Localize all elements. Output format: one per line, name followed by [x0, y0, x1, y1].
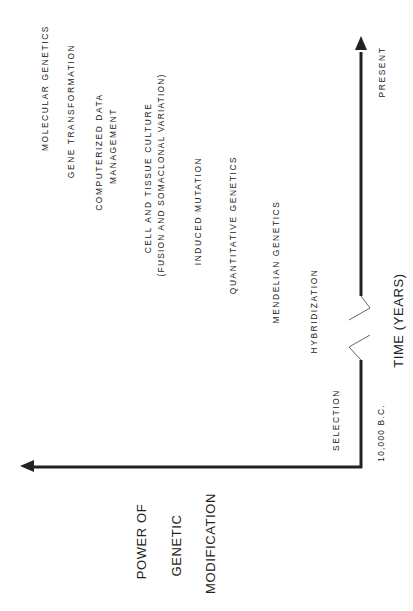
power-axis-title-line3: MODIFICATION — [203, 484, 218, 604]
axis-break-upper — [349, 296, 370, 320]
time-end-label: PRESENT — [377, 41, 387, 103]
time-axis-arrowhead — [355, 36, 367, 50]
milestone-induced-mutation: INDUCED MUTATION — [193, 152, 203, 270]
power-axis-title-line1: POWER OF — [134, 500, 149, 584]
milestone-cell-tissue-culture-sub: (FUSION AND SOMACLONAL VARIATION) — [156, 59, 166, 291]
milestone-selection: SELECTION — [331, 384, 341, 456]
milestone-computerized-data-sub: MANAGEMENT — [108, 88, 118, 204]
time-axis-title: TIME (YEARS) — [391, 245, 406, 397]
time-start-label: 10,000 B.C. — [376, 399, 386, 467]
milestone-hybridization: HYBRIDIZATION — [309, 264, 319, 358]
power-axis-title-line2: GENETIC — [169, 511, 184, 581]
axis-break-lower — [349, 335, 370, 360]
power-axis-arrowhead — [20, 460, 34, 472]
milestone-quantitative-genetics: QUANTITATIVE GENETICS — [228, 150, 238, 300]
milestone-mendelian-genetics: MENDELIAN GENETICS — [271, 194, 281, 330]
milestone-cell-tissue-culture: CELL AND TISSUE CULTURE — [143, 94, 153, 262]
milestone-computerized-data: COMPUTERIZED DATA — [94, 80, 104, 224]
milestone-molecular-genetics: MOLECULAR GENETICS — [40, 5, 50, 171]
milestone-gene-transformation: GENE TRANSFORMATION — [66, 37, 76, 185]
